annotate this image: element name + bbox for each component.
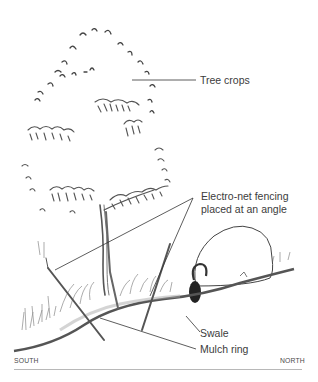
fencing-leader-1: [55, 198, 193, 270]
compass-south: SOUTH: [14, 356, 39, 365]
swale-leader: [186, 316, 200, 332]
label-mulch-ring: Mulch ring: [200, 343, 248, 356]
label-swale: Swale: [200, 327, 229, 340]
sheep-icon: [189, 226, 273, 303]
compass-north: NORTH: [280, 356, 305, 365]
mulch-ring-leader: [100, 318, 196, 349]
bottom-divider: [14, 369, 302, 370]
diagram-canvas: Tree crops Electro-net fencing placed at…: [0, 0, 318, 382]
fencing-leader-2: [150, 198, 193, 296]
label-tree-crops: Tree crops: [200, 74, 250, 87]
label-fencing-line1: Electro-net fencing: [201, 190, 289, 203]
label-fencing-line2: placed at an angle: [201, 203, 287, 216]
